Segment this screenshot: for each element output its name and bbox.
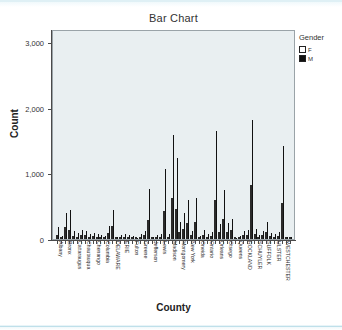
legend-label-m: M (308, 56, 313, 62)
x-tick-mark (85, 241, 86, 244)
bar-m (62, 236, 63, 239)
bar-m (200, 236, 201, 239)
x-tick-mark (231, 241, 232, 244)
bar-m (228, 223, 229, 239)
bar-m (137, 238, 138, 239)
x-tick-label: Chenango (95, 241, 100, 265)
x-tick-mark (100, 241, 101, 244)
x-tick-mark (262, 241, 263, 244)
x-tick-label: Cattaraugus (76, 241, 81, 269)
x-tick-mark (199, 241, 200, 244)
bar-m (125, 234, 126, 239)
x-tick-label: ROCKLAND (247, 241, 252, 270)
legend: Gender F M (299, 33, 342, 64)
bar-m (117, 237, 118, 239)
legend-item-m[interactable]: M (299, 55, 342, 62)
x-tick-label: SUFFOLK (266, 241, 271, 265)
x-tick-mark (266, 241, 267, 244)
bar-m (279, 232, 280, 239)
y-tick-label: 2,000 (0, 109, 44, 118)
x-tick-mark (140, 241, 141, 244)
x-tick-label: Jefferson (152, 241, 157, 262)
bar-m (86, 231, 87, 239)
y-tick-mark (48, 174, 52, 175)
bar-group (281, 146, 285, 239)
y-axis-label: Count (9, 94, 20, 154)
x-tick-mark (112, 241, 113, 244)
bar-m (192, 231, 193, 239)
bar-m (133, 236, 134, 239)
x-tick-mark (191, 241, 192, 244)
y-axis-line (51, 30, 52, 241)
x-tick-mark (81, 241, 82, 244)
x-tick-mark (136, 241, 137, 244)
bar-m (204, 230, 205, 239)
x-tick-mark (207, 241, 208, 244)
x-tick-mark (77, 241, 78, 244)
x-tick-mark (187, 241, 188, 244)
chart-title: Bar Chart (52, 12, 295, 24)
bar-m (165, 169, 166, 239)
x-tick-mark (73, 241, 74, 244)
bar-m (252, 120, 253, 239)
x-tick-mark (116, 241, 117, 244)
y-tick-label: 0 (0, 240, 44, 249)
legend-swatch-f-icon (299, 46, 306, 53)
bar-m (275, 234, 276, 239)
x-tick-mark (235, 241, 236, 244)
x-tick-label: WESTCHESTER (285, 241, 290, 281)
bar-m (113, 210, 114, 239)
bar-m (66, 213, 67, 239)
bar-m (232, 219, 233, 239)
x-tick-mark (120, 241, 121, 244)
bar-m (82, 230, 83, 239)
x-tick-mark (168, 241, 169, 244)
x-tick-label: DELAWARE (114, 241, 119, 270)
x-tick-mark (93, 241, 94, 244)
bar-m (101, 235, 102, 239)
bar-m (173, 135, 174, 239)
y-tick-label: 1,000 (0, 174, 44, 183)
bar-m (74, 231, 75, 239)
bars-layer (56, 31, 291, 239)
bar-m (149, 189, 150, 239)
x-tick-mark (57, 241, 58, 244)
bar-m (248, 230, 249, 239)
x-tick-mark (247, 241, 248, 244)
x-tick-mark (195, 241, 196, 244)
bar-m (153, 237, 154, 239)
x-tick-mark (96, 241, 97, 244)
legend-item-f[interactable]: F (299, 46, 342, 53)
x-tick-mark (251, 241, 252, 244)
top-decorative-line (0, 0, 342, 2)
x-tick-label: New York (190, 241, 195, 263)
bar-m (188, 200, 189, 239)
x-tick-mark (203, 241, 204, 244)
x-tick-mark (156, 241, 157, 244)
bar-m (98, 234, 99, 239)
x-tick-mark (215, 241, 216, 244)
x-tick-mark (144, 241, 145, 244)
bar-group (250, 120, 254, 239)
x-tick-mark (223, 241, 224, 244)
chart-page: Bar Chart 01,0002,0003,000 Count AlbanyB… (0, 0, 342, 330)
x-tick-mark (183, 241, 184, 244)
bar-m (145, 231, 146, 239)
bar-m (105, 236, 106, 239)
x-tick-mark (286, 241, 287, 244)
bar-m (70, 210, 71, 239)
bar-m (271, 233, 272, 239)
bar-m (161, 234, 162, 239)
bar-m (177, 158, 178, 239)
x-tick-mark (175, 241, 176, 244)
bar-m (287, 237, 288, 239)
bar-group (111, 210, 115, 239)
bar-m (263, 231, 264, 239)
bar-group (147, 189, 151, 239)
x-tick-mark (211, 241, 212, 244)
x-tick-label: ULSTER (275, 241, 280, 261)
bar-m (267, 222, 268, 239)
bar-group (214, 131, 218, 239)
plot-area (52, 30, 295, 240)
plot-inner (53, 31, 294, 239)
